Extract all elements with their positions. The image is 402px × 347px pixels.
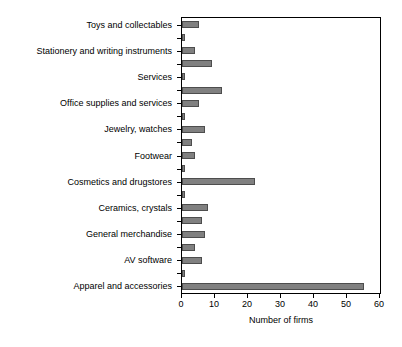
bar (182, 244, 195, 251)
y-axis-label: Jewelry, watches (104, 124, 172, 134)
y-axis-label: Stationery and writing instruments (36, 46, 172, 56)
bar (182, 257, 202, 264)
bar-row (182, 21, 199, 28)
bar-row (182, 165, 185, 172)
bar (182, 178, 255, 185)
bar-row (182, 100, 199, 107)
bar (182, 217, 202, 224)
x-axis-tick-label: 50 (341, 299, 351, 310)
x-axis-tick-labels: 0102030405060 (181, 299, 381, 312)
bar (182, 152, 195, 159)
bar-row (182, 204, 208, 211)
bar (182, 231, 205, 238)
bar (182, 283, 364, 290)
x-axis-tick (313, 293, 314, 298)
x-axis-tick-label: 30 (275, 299, 285, 310)
bar-row (182, 87, 222, 94)
bar (182, 165, 185, 172)
bar (182, 139, 192, 146)
x-axis-tick-marks (181, 293, 381, 298)
bar (182, 60, 212, 67)
bar (182, 87, 222, 94)
bar-row (182, 191, 185, 198)
y-axis-label: Office supplies and services (60, 98, 172, 108)
bar-row (182, 47, 195, 54)
x-axis-tick-label: 60 (374, 299, 384, 310)
y-axis-label: Services (137, 72, 172, 82)
bar (182, 100, 199, 107)
y-axis-label: Ceramics, crystals (98, 203, 172, 213)
bar-row (182, 152, 195, 159)
x-axis-tick-label: 40 (308, 299, 318, 310)
bar-row (182, 139, 192, 146)
y-axis-label: Cosmetics and drugstores (67, 177, 172, 187)
bar-row (182, 34, 185, 41)
bar (182, 270, 185, 277)
bar-row (182, 217, 202, 224)
x-axis-tick (379, 293, 380, 298)
bar-row (182, 270, 185, 277)
bar-chart: Toys and collectablesStationery and writ… (0, 0, 402, 347)
y-axis-label: Footwear (134, 151, 172, 161)
bar (182, 191, 185, 198)
bar (182, 73, 185, 80)
y-axis-label: AV software (124, 255, 172, 265)
bar-row (182, 126, 205, 133)
bar (182, 204, 208, 211)
x-axis-tick-label: 20 (242, 299, 252, 310)
bar-row (182, 178, 255, 185)
bar (182, 113, 185, 120)
bar-row (182, 231, 205, 238)
y-axis-category-labels: Toys and collectablesStationery and writ… (0, 18, 172, 293)
x-axis-tick (181, 293, 182, 298)
bar-row (182, 257, 202, 264)
y-axis-label: Toys and collectables (86, 20, 172, 30)
x-axis-tick (247, 293, 248, 298)
x-axis-tick (346, 293, 347, 298)
bar (182, 47, 195, 54)
bar (182, 21, 199, 28)
bar-row (182, 60, 212, 67)
y-axis-label: General merchandise (86, 229, 172, 239)
bar-row (182, 244, 195, 251)
bars-container (182, 18, 380, 293)
x-axis-tick (280, 293, 281, 298)
bar (182, 34, 185, 41)
bar-row (182, 73, 185, 80)
bar (182, 126, 205, 133)
x-axis-tick-label: 10 (209, 299, 219, 310)
x-axis-tick-label: 0 (178, 299, 183, 310)
bar-row (182, 113, 185, 120)
x-axis-tick (214, 293, 215, 298)
y-axis-label: Apparel and accessories (73, 281, 172, 291)
x-axis-title: Number of firms (181, 315, 381, 326)
bar-row (182, 283, 364, 290)
